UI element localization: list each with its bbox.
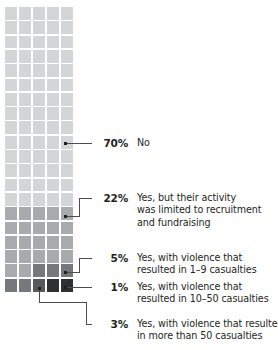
waffle-cell: [47, 222, 59, 235]
waffle-cell: [61, 93, 73, 106]
waffle-cell: [47, 279, 59, 292]
waffle-cell: [61, 264, 73, 277]
waffle-cell: [19, 64, 31, 77]
waffle-cell: [19, 164, 31, 177]
legend-percent-no: 70%: [96, 137, 128, 150]
waffle-cell: [19, 121, 31, 134]
leader-line-violence-50-plus: [40, 289, 93, 325]
waffle-cell: [19, 107, 31, 120]
waffle-cell: [19, 250, 31, 263]
waffle-cell: [5, 107, 17, 120]
waffle-cell: [33, 93, 45, 106]
waffle-cell: [5, 193, 17, 206]
legend-item-recruitment: 22% Yes, but their activity was limited …: [96, 192, 261, 229]
waffle-cell: [19, 207, 31, 220]
waffle-cell: [33, 207, 45, 220]
waffle-cell: [33, 179, 45, 192]
waffle-cell: [5, 279, 17, 292]
legend-percent-violence-1-9: 5%: [96, 252, 128, 265]
waffle-cell: [47, 7, 59, 20]
waffle-cell: [33, 21, 45, 34]
waffle-grid: [5, 7, 73, 293]
waffle-cell: [47, 121, 59, 134]
legend-item-violence-1-9: 5% Yes, with violence that resulted in 1…: [96, 252, 257, 277]
waffle-cell: [33, 222, 45, 235]
waffle-cell: [5, 136, 17, 149]
waffle-cell: [47, 64, 59, 77]
legend-item-violence-50-plus: 3% Yes, with violence that resulted in m…: [96, 318, 278, 343]
waffle-cell: [47, 107, 59, 120]
waffle-cell: [5, 179, 17, 192]
waffle-cell: [5, 64, 17, 77]
waffle-cell: [47, 179, 59, 192]
waffle-cell: [5, 93, 17, 106]
waffle-cell: [33, 250, 45, 263]
legend-description-recruitment: Yes, but their activity was limited to r…: [137, 192, 261, 229]
waffle-cell: [5, 250, 17, 263]
waffle-cell: [5, 36, 17, 49]
waffle-cell: [61, 107, 73, 120]
waffle-cell: [19, 179, 31, 192]
waffle-cell: [33, 36, 45, 49]
waffle-cell: [61, 250, 73, 263]
waffle-cell: [5, 150, 17, 163]
waffle-cell: [19, 236, 31, 249]
waffle-cell: [61, 193, 73, 206]
legend-description-violence-10-50: Yes, with violence that resulted in 10–5…: [137, 281, 269, 306]
waffle-cell: [5, 50, 17, 63]
waffle-cell: [33, 264, 45, 277]
waffle-cell: [61, 222, 73, 235]
waffle-cell: [19, 93, 31, 106]
legend-percent-violence-50-plus: 3%: [96, 318, 128, 331]
waffle-cell: [33, 193, 45, 206]
waffle-cell: [61, 279, 73, 292]
waffle-cell: [61, 207, 73, 220]
waffle-cell: [33, 7, 45, 20]
waffle-cell: [61, 50, 73, 63]
waffle-cell: [47, 164, 59, 177]
waffle-cell: [61, 79, 73, 92]
waffle-cell: [19, 36, 31, 49]
waffle-cell: [19, 150, 31, 163]
waffle-cell: [33, 236, 45, 249]
legend-percent-violence-10-50: 1%: [96, 281, 128, 294]
legend-description-violence-1-9: Yes, with violence that resulted in 1–9 …: [137, 252, 257, 277]
waffle-cell: [5, 7, 17, 20]
waffle-cell: [47, 264, 59, 277]
waffle-cell: [33, 150, 45, 163]
legend-percent-recruitment: 22%: [96, 192, 128, 205]
waffle-cell: [61, 121, 73, 134]
waffle-cell: [5, 79, 17, 92]
waffle-cell: [19, 21, 31, 34]
waffle-cell: [61, 64, 73, 77]
waffle-cell: [5, 207, 17, 220]
legend-description-violence-50-plus: Yes, with violence that resulted in more…: [137, 318, 278, 343]
waffle-cell: [47, 21, 59, 34]
waffle-cell: [33, 64, 45, 77]
waffle-cell: [5, 264, 17, 277]
waffle-cell: [47, 250, 59, 263]
waffle-cell: [61, 7, 73, 20]
waffle-cell: [47, 236, 59, 249]
waffle-cell: [47, 207, 59, 220]
waffle-cell: [47, 36, 59, 49]
waffle-cell: [47, 150, 59, 163]
waffle-cell: [19, 7, 31, 20]
waffle-cell: [19, 222, 31, 235]
waffle-cell: [33, 136, 45, 149]
waffle-cell: [33, 121, 45, 134]
waffle-cell: [61, 164, 73, 177]
waffle-cell: [19, 136, 31, 149]
legend-item-no: 70% No: [96, 137, 150, 150]
waffle-cell: [19, 193, 31, 206]
waffle-cell: [47, 93, 59, 106]
waffle-cell: [61, 21, 73, 34]
waffle-cell: [33, 164, 45, 177]
waffle-cell: [61, 179, 73, 192]
waffle-cell: [19, 279, 31, 292]
waffle-cell: [47, 193, 59, 206]
legend-description-no: No: [137, 137, 150, 149]
waffle-cell: [19, 79, 31, 92]
waffle-cell: [61, 236, 73, 249]
legend-item-violence-10-50: 1% Yes, with violence that resulted in 1…: [96, 281, 269, 306]
